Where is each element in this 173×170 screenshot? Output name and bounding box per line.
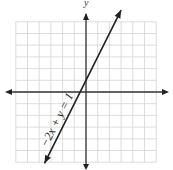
graph-svg: y −2x + y = 1	[0, 0, 173, 170]
line-arrow-up-icon	[115, 10, 121, 19]
line-equation-label: −2x + y = 1	[37, 90, 76, 149]
coordinate-plane: y −2x + y = 1	[0, 0, 173, 170]
y-axis-down-arrow-icon	[83, 164, 89, 170]
y-axis-up-arrow-icon	[83, 13, 89, 20]
x-axis-left-arrow-icon	[5, 89, 12, 95]
x-axis-right-arrow-icon	[162, 89, 169, 95]
y-axis-label: y	[83, 0, 89, 8]
